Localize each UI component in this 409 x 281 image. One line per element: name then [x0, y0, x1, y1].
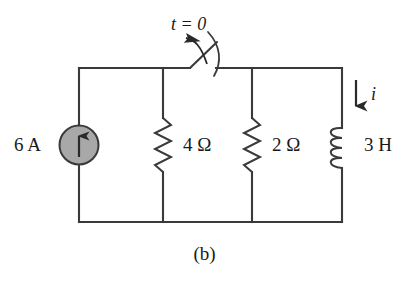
resistor-4ohm-label: 4 Ω [183, 135, 211, 154]
inductor-label: 3 H [364, 135, 392, 154]
circuit-diagram: t = 0 6 A 4 Ω 2 Ω 3 H i (b) [0, 0, 409, 281]
switch-symbol [186, 32, 219, 76]
switch-time-label: t = 0 [171, 15, 206, 33]
inductor-symbol [331, 128, 342, 168]
resistor-2ohm-symbol [244, 118, 260, 172]
current-source-label: 6 A [14, 135, 41, 154]
current-source-symbol [60, 126, 99, 165]
resistor-4ohm-symbol [155, 118, 171, 172]
current-arrow-label: i [371, 85, 376, 103]
figure-caption: (b) [0, 243, 409, 265]
resistor-2ohm-label: 2 Ω [272, 135, 300, 154]
